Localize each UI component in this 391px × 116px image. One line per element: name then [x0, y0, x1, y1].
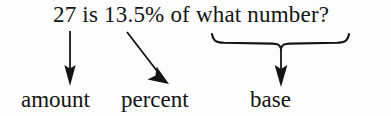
- label-base: base: [250, 86, 291, 114]
- base-brace-icon: [212, 34, 349, 49]
- diagram-canvas: 27 is 13.5% of what number? amount perce…: [0, 0, 391, 116]
- label-percent: percent: [121, 86, 189, 114]
- amount-arrow-icon: [64, 31, 75, 86]
- label-amount: amount: [21, 86, 90, 114]
- base-arrow-icon: [275, 49, 288, 87]
- base-brace-path: [212, 34, 349, 49]
- percent-arrow-head: [148, 67, 170, 85]
- percent-arrow-shaft: [127, 32, 157, 71]
- percent-arrow-icon: [127, 32, 169, 84]
